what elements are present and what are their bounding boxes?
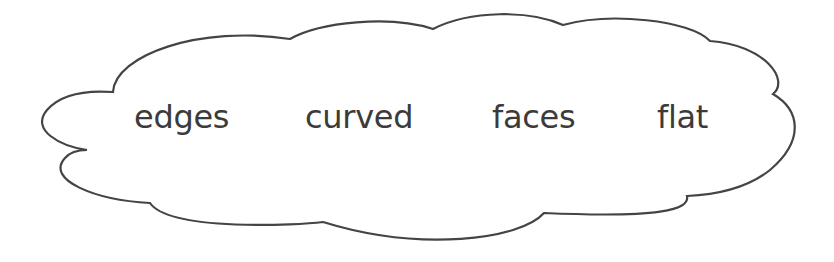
word-curved: curved xyxy=(305,97,413,137)
word-edges: edges xyxy=(134,97,229,137)
word-faces: faces xyxy=(492,97,575,137)
word-flat: flat xyxy=(657,97,708,137)
cloud-outline-icon xyxy=(0,0,834,262)
